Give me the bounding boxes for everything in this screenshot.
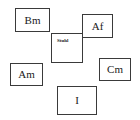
diagram-node-af-label: Af	[92, 21, 104, 32]
diagram-node-cm-label: Cm	[107, 64, 123, 75]
diagram-node-stuhl[interactable]: Stuhl	[51, 33, 83, 63]
diagram-node-i-label: I	[75, 95, 79, 106]
diagram-node-af[interactable]: Af	[82, 14, 113, 38]
diagram-node-i[interactable]: I	[57, 86, 97, 115]
diagram-node-cm[interactable]: Cm	[99, 58, 131, 81]
diagram-node-am[interactable]: Am	[10, 63, 43, 86]
diagram-node-bm-label: Bm	[25, 15, 41, 26]
diagram-node-bm[interactable]: Bm	[15, 8, 50, 32]
diagram-canvas: Bm Af Stuhl Am Cm I	[0, 0, 140, 120]
diagram-node-stuhl-label: Stuhl	[57, 38, 68, 43]
diagram-node-am-label: Am	[18, 69, 35, 80]
